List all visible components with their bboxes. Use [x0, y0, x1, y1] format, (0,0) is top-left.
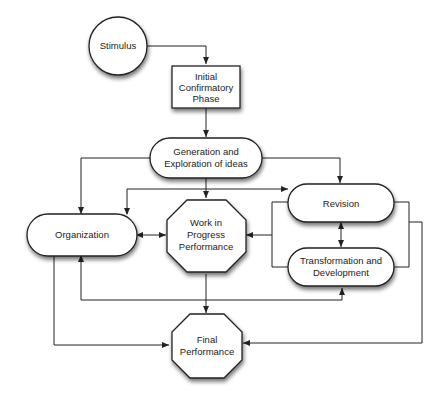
node-initial-label-1: Initial	[195, 71, 217, 82]
edge-stimulus-to-initial	[147, 46, 206, 64]
node-initial-label-2: Confirmatory	[179, 82, 234, 93]
edge-generation-revision	[250, 158, 340, 183]
svg-text:Progress: Progress	[187, 229, 225, 240]
node-generation-exploration: Generation and Exploration of ideas	[150, 138, 262, 178]
node-transformation-label-2: Development	[313, 267, 369, 278]
node-wip-label-2: Progress	[187, 229, 225, 240]
node-final-performance: Final Performance	[172, 314, 242, 378]
node-work-in-progress-performance: Work in Progress Performance	[167, 200, 246, 272]
svg-text:Development: Development	[313, 267, 369, 278]
node-stimulus: Stimulus	[89, 17, 147, 75]
svg-text:Performance: Performance	[180, 346, 234, 357]
flowchart-diagram: Stimulus Initial Confirmatory Phase Gene…	[0, 0, 444, 398]
edge-bracket-left	[272, 202, 288, 267]
node-generation-label-1: Generation and	[173, 146, 239, 157]
node-organization: Organization	[27, 214, 137, 256]
edge-bracket-right	[394, 202, 409, 267]
node-transformation-development: Transformation and Development	[288, 248, 394, 286]
node-stimulus-label: Stimulus	[100, 40, 137, 51]
node-final-label-1: Final	[197, 334, 218, 345]
svg-text:Work in: Work in	[190, 217, 222, 228]
svg-text:Exploration of ideas: Exploration of ideas	[164, 158, 248, 169]
node-transformation-label-1: Transformation and	[300, 255, 382, 266]
node-initial-label-3: Phase	[193, 93, 220, 104]
svg-text:Generation and: Generation and	[173, 146, 239, 157]
svg-text:Initial: Initial	[195, 71, 217, 82]
node-wip-label-3: Performance	[179, 241, 233, 252]
node-revision: Revision	[288, 184, 394, 222]
node-organization-label: Organization	[55, 229, 109, 240]
svg-text:Transformation and: Transformation and	[300, 255, 382, 266]
node-initial-confirmatory-phase: Initial Confirmatory Phase	[172, 66, 240, 108]
svg-text:Phase: Phase	[193, 93, 220, 104]
svg-text:Revision: Revision	[323, 198, 359, 209]
edge-generation-organization	[81, 158, 162, 214]
node-revision-label: Revision	[323, 198, 359, 209]
node-final-label-2: Performance	[180, 346, 234, 357]
svg-text:Performance: Performance	[179, 241, 233, 252]
svg-text:Organization: Organization	[55, 229, 109, 240]
svg-text:Stimulus: Stimulus	[100, 40, 137, 51]
node-wip-label-1: Work in	[190, 217, 222, 228]
node-generation-label-2: Exploration of ideas	[164, 158, 248, 169]
svg-text:Final: Final	[197, 334, 218, 345]
svg-text:Confirmatory: Confirmatory	[179, 82, 234, 93]
